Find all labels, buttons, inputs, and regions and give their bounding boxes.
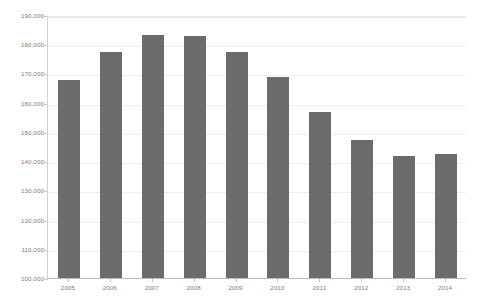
y-axis-tick-label: 110,000 [2, 247, 44, 253]
x-axis-tick-label-2011: 2011 [299, 285, 339, 291]
x-axis-tick-mark [152, 279, 153, 282]
bar-slot [174, 16, 216, 278]
y-axis-tick-label: 170,000 [2, 71, 44, 77]
y-axis-tick-label: 100,000 [2, 276, 44, 282]
bar-2008[interactable] [184, 36, 206, 278]
bar-slot [216, 16, 258, 278]
bar-2006[interactable] [100, 52, 122, 278]
x-axis-tick-mark [361, 279, 362, 282]
y-axis-tick-label: 190,000 [2, 13, 44, 19]
bar-slot [383, 16, 425, 278]
x-axis-tick-mark [110, 279, 111, 282]
x-axis-tick-mark [277, 279, 278, 282]
plot-area [47, 16, 466, 279]
bar-2014[interactable] [435, 154, 457, 278]
x-axis-tick-label-2009: 2009 [216, 285, 256, 291]
x-axis-tick-label-2008: 2008 [174, 285, 214, 291]
x-axis-tick-mark [403, 279, 404, 282]
y-axis-tick-label: 140,000 [2, 159, 44, 165]
x-axis-tick-mark [319, 279, 320, 282]
y-axis-tick-mark [44, 279, 48, 280]
bar-chart: 190,000180,000170,000160,000150,000140,0… [0, 0, 477, 306]
bar-slot [341, 16, 383, 278]
x-axis-tick-label-2005: 2005 [48, 285, 88, 291]
x-axis-tick-mark [68, 279, 69, 282]
y-axis-tick-label: 120,000 [2, 218, 44, 224]
x-axis-tick-mark [445, 279, 446, 282]
bar-slot [299, 16, 341, 278]
bar-2005[interactable] [58, 80, 80, 278]
bar-2012[interactable] [351, 140, 373, 278]
x-axis-tick-label-2014: 2014 [425, 285, 465, 291]
x-axis-tick-label-2010: 2010 [257, 285, 297, 291]
y-axis-tick-label: 180,000 [2, 42, 44, 48]
y-axis-tick-label: 130,000 [2, 188, 44, 194]
x-axis-tick-label-2007: 2007 [132, 285, 172, 291]
bar-slot [425, 16, 467, 278]
y-axis-tick-label: 150,000 [2, 130, 44, 136]
x-axis-tick-mark [236, 279, 237, 282]
bar-slot [258, 16, 300, 278]
x-axis-tick-label-2006: 2006 [90, 285, 130, 291]
x-axis-tick-label-2012: 2012 [341, 285, 381, 291]
bar-2013[interactable] [393, 156, 415, 278]
bar-slot [48, 16, 90, 278]
bar-2009[interactable] [226, 52, 248, 278]
bar-2011[interactable] [309, 112, 331, 278]
bar-2007[interactable] [142, 35, 164, 278]
bar-2010[interactable] [267, 77, 289, 278]
x-axis-tick-label-2013: 2013 [383, 285, 423, 291]
bar-slot [132, 16, 174, 278]
x-axis-tick-mark [194, 279, 195, 282]
bar-slot [90, 16, 132, 278]
y-axis-tick-label: 160,000 [2, 101, 44, 107]
